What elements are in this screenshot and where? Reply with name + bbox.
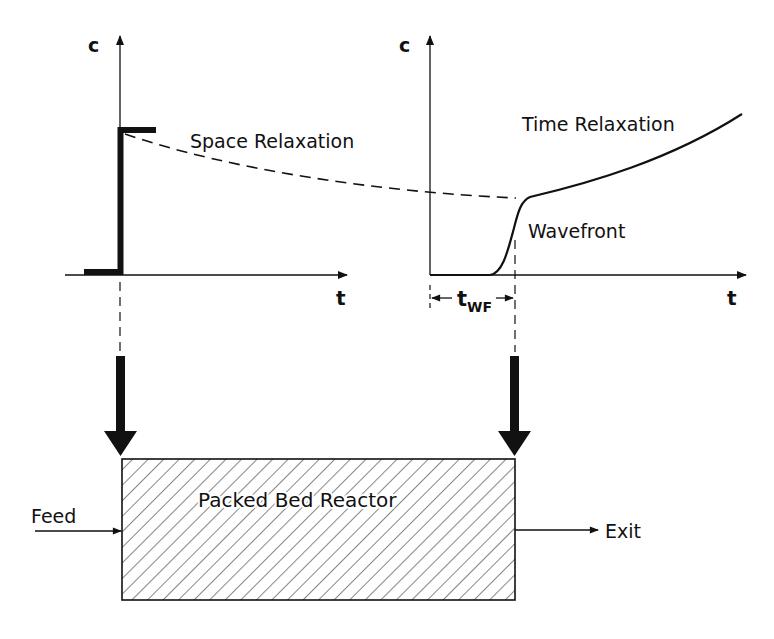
packed-bed-reactor: Packed Bed Reactor bbox=[122, 459, 515, 600]
step-input-curve bbox=[84, 130, 156, 272]
feed-inlet: Feed bbox=[31, 505, 121, 531]
outlet-concentration-plot: c t Time Relaxation Wavefront tWF bbox=[399, 34, 746, 315]
time-relaxation-label: Time Relaxation bbox=[521, 113, 675, 135]
outlet-probe-arrow bbox=[498, 356, 531, 456]
right-y-axis-label: c bbox=[399, 34, 410, 56]
inlet-probe-arrow bbox=[104, 356, 137, 456]
space-relaxation-label: Space Relaxation bbox=[190, 130, 354, 152]
left-x-axis-label: t bbox=[336, 286, 346, 310]
left-y-axis-label: c bbox=[88, 34, 99, 56]
twf-label: tWF bbox=[457, 287, 492, 315]
wavefront-label: Wavefront bbox=[528, 220, 625, 242]
packed-bed-diagram: c t Space Relaxation c t Time Relaxation… bbox=[0, 0, 774, 639]
exit-label: Exit bbox=[605, 520, 641, 542]
breakthrough-curve bbox=[430, 114, 742, 275]
inlet-concentration-plot: c t Space Relaxation bbox=[65, 34, 354, 310]
exit-outlet: Exit bbox=[515, 520, 641, 542]
wavefront-time-interval: tWF bbox=[430, 285, 513, 315]
feed-label: Feed bbox=[31, 505, 76, 527]
right-x-axis-label: t bbox=[727, 286, 737, 310]
reactor-title: Packed Bed Reactor bbox=[198, 488, 397, 512]
